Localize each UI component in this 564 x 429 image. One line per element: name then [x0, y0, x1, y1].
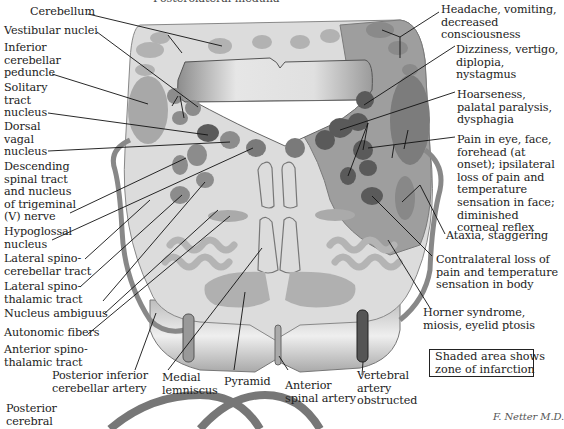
- right-vertebral-artery-obstructed: [357, 310, 368, 362]
- left-inferior-cerebellar-peduncle: [128, 76, 168, 144]
- label-solitary-tract-nucleus: Solitary tract nucleus: [4, 82, 48, 120]
- label-medial-lemniscus: Medial lemniscus: [162, 372, 218, 397]
- label-lateral-spinothalamic-tract: Lateral spino- thalamic tract: [4, 281, 83, 306]
- label-autonomic-fibers: Autonomic fibers: [4, 327, 99, 340]
- label-dorsal-vagal-nucleus: Dorsal vagal nucleus: [4, 121, 47, 159]
- label-horner-syndrome: Horner syndrome, miosis, eyelid ptosis: [423, 307, 535, 332]
- anterior-spinal-artery: [275, 325, 281, 365]
- label-hypoglossal-nucleus: Hypoglossal nucleus: [4, 226, 72, 251]
- label-anterior-spinal-artery: Anterior spinal artery: [285, 380, 356, 405]
- artist-signature: F. Netter M.D.: [493, 411, 564, 424]
- fourth-ventricle-roof: [178, 58, 373, 102]
- label-nucleus-ambiguus: Nucleus ambiguus: [4, 308, 108, 321]
- label-anterior-spinothalamic-tract: Anterior spino- thalamic tract: [4, 344, 88, 369]
- label-inferior-cerebellar-peduncle: Inferior cerebellar peduncle: [4, 42, 61, 80]
- label-ataxia: Ataxia, staggering: [446, 230, 548, 243]
- label-posterior-cerebral: Posterior cerebral: [6, 403, 57, 428]
- label-contralateral-loss: Contralateral loss of pain and temperatu…: [436, 254, 558, 292]
- label-dizziness: Dizziness, vertigo, diplopia, nystagmus: [456, 44, 558, 82]
- label-pain-eye-face: Pain in eye, face, forehead (at onset); …: [457, 134, 555, 235]
- label-hoarseness: Hoarseness, palatal paralysis, dysphagia: [457, 89, 552, 127]
- label-descending-spinal-tract: Descending spinal tract and nucleus of t…: [4, 161, 76, 224]
- label-pyramid: Pyramid: [224, 376, 271, 389]
- label-lateral-spinocerebellar-tract: Lateral spino- cerebellar tract: [4, 253, 91, 278]
- legend-infarction-note: Shaded area shows zone of infarction: [429, 349, 534, 377]
- label-posterior-inferior-cerebellar-artery: Posterior inferior cerebellar artery: [52, 370, 148, 395]
- label-vestibular-nuclei: Vestibular nuclei: [4, 25, 98, 38]
- label-vertebral-artery-obstructed: Vertebral artery obstructed: [357, 370, 417, 408]
- label-cerebellum: Cerebellum: [30, 6, 95, 19]
- label-headache: Headache, vomiting, decreased consciousn…: [441, 4, 556, 42]
